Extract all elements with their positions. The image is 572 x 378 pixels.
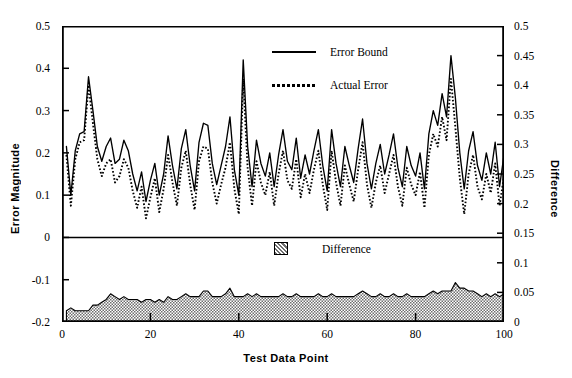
y-tick-right: 0.3 bbox=[514, 138, 528, 150]
plot-frame bbox=[62, 26, 504, 322]
y-tick-left: 0.3 bbox=[0, 105, 50, 117]
y-tick-left: 0 bbox=[0, 231, 50, 243]
y-tick-left: 0.4 bbox=[0, 62, 50, 74]
x-tick: 0 bbox=[59, 328, 65, 340]
y-tick-right: 0.05 bbox=[514, 286, 534, 298]
y-tick-right: 0.35 bbox=[514, 109, 534, 121]
plot-svg bbox=[62, 26, 504, 322]
y-tick-right: 0 bbox=[514, 316, 520, 328]
x-tick: 100 bbox=[495, 328, 512, 340]
y-tick-right: 0.4 bbox=[514, 79, 528, 91]
difference-area bbox=[66, 283, 504, 322]
x-tick: 20 bbox=[145, 328, 157, 340]
y-tick-right: 0.45 bbox=[514, 50, 534, 62]
y-tick-right: 0.25 bbox=[514, 168, 534, 180]
plot-area bbox=[62, 26, 504, 322]
y-tick-left: 0.1 bbox=[0, 189, 50, 201]
y-tick-right: 0.1 bbox=[514, 257, 528, 269]
y-tick-right: 0.2 bbox=[514, 198, 528, 210]
y-tick-left: 0.2 bbox=[0, 147, 50, 159]
x-tick: 80 bbox=[410, 328, 422, 340]
x-tick: 40 bbox=[233, 328, 245, 340]
y-tick-right: 0.5 bbox=[514, 20, 528, 32]
x-tick: 60 bbox=[321, 328, 333, 340]
y-tick-right: 0.15 bbox=[514, 227, 534, 239]
y-tick-left: -0.1 bbox=[0, 274, 50, 286]
error-bound-line bbox=[66, 56, 504, 202]
y-tick-left: -0.2 bbox=[0, 316, 50, 328]
y-axis-title-right: Difference bbox=[544, 0, 566, 378]
y-tick-left: 0.5 bbox=[0, 20, 50, 32]
x-axis-title: Test Data Point bbox=[0, 352, 572, 364]
chart-figure: Error Magnitude Difference Test Data Poi… bbox=[0, 0, 572, 378]
